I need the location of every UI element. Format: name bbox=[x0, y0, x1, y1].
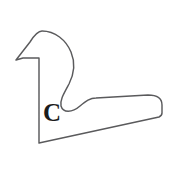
figure-canvas: C bbox=[0, 0, 172, 179]
region-label-c: C bbox=[43, 100, 61, 125]
closed-outline-region bbox=[16, 31, 162, 143]
outline-shape-svg bbox=[0, 0, 172, 179]
